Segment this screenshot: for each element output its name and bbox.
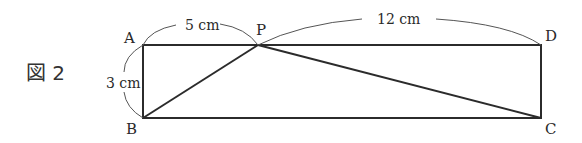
arc-ab-top — [124, 45, 143, 72]
measure-ab: 3 cm — [106, 75, 140, 91]
vertex-b: B — [126, 120, 137, 138]
measure-ap: 5 cm — [185, 17, 219, 33]
vertex-a: A — [123, 29, 135, 47]
measure-pd: 12 cm — [377, 11, 420, 27]
rectangle-abcd — [143, 45, 541, 118]
arc-pd-right — [436, 19, 541, 45]
vertex-d: D — [545, 27, 557, 45]
vertex-c: C — [545, 120, 556, 138]
segment-pc — [258, 45, 541, 118]
arc-ab-bottom — [124, 92, 143, 118]
figure-2-diagram: 図 2 5 cm 12 cm 3 cm A P D B C — [0, 0, 582, 143]
figure-caption: 図 2 — [26, 61, 65, 85]
vertex-p: P — [256, 21, 266, 39]
arc-pd-left — [258, 19, 362, 45]
segment-bp — [143, 45, 258, 118]
arc-ap-right — [220, 24, 258, 45]
arc-ap-left — [143, 25, 176, 45]
